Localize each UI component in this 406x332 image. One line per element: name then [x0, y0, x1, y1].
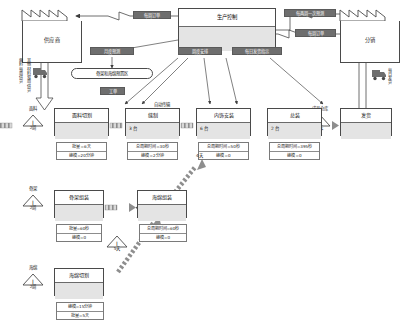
- info-arrows-schedule-fanout: [125, 58, 323, 104]
- supplier-box[interactable]: 供应商: [22, 21, 82, 63]
- process-foam-cut-body: [55, 283, 103, 299]
- process-interior-install-name: 内饰安装: [197, 109, 250, 123]
- data-row: 批量=5天: [57, 312, 103, 320]
- process-fabric-cut-body: [55, 123, 108, 139]
- process-sewing[interactable]: 缝制 3 台: [125, 108, 180, 136]
- production-control-box[interactable]: 生产控制: [178, 8, 276, 50]
- data-row: 换模=0: [57, 234, 101, 242]
- branch-to-mainline-time: 4天: [196, 152, 203, 158]
- supplier-roof-icon: [22, 10, 67, 21]
- data-box-fabric-cut: 批量=6天 换模=20分钟: [56, 142, 107, 160]
- process-foam-assembly[interactable]: 海绵组装: [137, 190, 187, 218]
- process-final-assembly[interactable]: 总装 2 台: [267, 108, 322, 136]
- inventory-triangle-icon: I: [22, 271, 44, 284]
- customer-roof-icon: [340, 10, 385, 21]
- production-control-label: 生产控制: [179, 9, 275, 27]
- data-box-frame-assembly: 批量=60秒 换模=0: [56, 224, 102, 242]
- supplier-shipping-note-2: 其他材料双周供货: [25, 58, 31, 92]
- process-frame-assembly-name: 骨架组装: [55, 191, 103, 205]
- info-chip-weekly-order-supplier[interactable]: 每周订单: [133, 11, 171, 19]
- process-foam-assembly-body: [138, 205, 186, 221]
- process-interior-install[interactable]: 内饰安装 6 台: [196, 108, 251, 136]
- data-box-foam-assembly: 总周期时间=60秒 换模=0: [139, 224, 187, 242]
- data-row: 换模=0: [270, 152, 319, 160]
- process-sewing-name: 缝制: [126, 109, 179, 123]
- info-chip-daily-ship-instruction[interactable]: 每日发货指示: [232, 47, 282, 55]
- process-interior-install-body: 6 台: [197, 123, 250, 139]
- inventory-triangle-icon: I: [22, 112, 44, 125]
- process-frame-assembly[interactable]: 骨架组装: [54, 190, 104, 218]
- data-row: 换模=2分钟: [128, 152, 177, 160]
- process-foam-cut-name: 海绵切割: [55, 269, 103, 283]
- data-row: 总周期时间=50秒: [199, 143, 248, 152]
- inventory-foam[interactable]: 海绵 I 2周: [22, 265, 44, 290]
- data-row: 换模=20分钟: [57, 152, 106, 160]
- process-final-assembly-name: 总装: [268, 109, 321, 123]
- data-row: 总周期时间=30秒: [128, 143, 177, 152]
- process-foam-cut[interactable]: 海绵切割: [54, 268, 104, 296]
- info-chip-weekly-order-customer[interactable]: 每周订单: [295, 29, 336, 37]
- auto-transfer-label: 自动传输: [154, 101, 170, 107]
- data-box-interior-install: 总周期时间=50秒 换模=0: [198, 142, 249, 160]
- data-row: 总周期时间=60秒: [140, 225, 186, 234]
- process-sewing-body: 3 台: [126, 123, 179, 139]
- inventory-triangle-icon: I: [22, 192, 44, 205]
- supermarket-preset-area[interactable]: 骨架和海绵预置区: [71, 68, 153, 79]
- data-row: 批量=60秒: [57, 225, 101, 234]
- info-chip-weekly-schedule[interactable]: 周度安排: [178, 47, 222, 55]
- data-row: 换模=15分钟: [57, 303, 103, 312]
- info-chip-biweekly-forecast[interactable]: 每两周一次预测: [284, 9, 336, 17]
- supplier-shipping-note-1: 面料每周供货: [17, 58, 23, 84]
- process-fabric-cut[interactable]: 面料切割: [54, 108, 109, 136]
- process-final-assembly-body: 2 台: [268, 123, 321, 139]
- data-row: 换模=0: [140, 234, 186, 242]
- process-shipping-body: [341, 123, 391, 139]
- customer-box[interactable]: 分销: [340, 21, 400, 63]
- truck-icon-outbound: [372, 70, 386, 80]
- process-fabric-cut-name: 面料切割: [55, 109, 108, 123]
- supplier-label: 供应商: [23, 36, 81, 43]
- process-shipping[interactable]: 发货: [340, 108, 392, 136]
- data-row: 总周期时间=395秒: [270, 143, 319, 152]
- process-shipping-name: 发货: [341, 109, 391, 123]
- data-row: 批量=6天: [57, 143, 106, 152]
- data-box-foam-cut: 换模=15分钟 批量=5天: [56, 302, 104, 320]
- info-chip-monthly-forecast[interactable]: 月度预测: [90, 47, 134, 55]
- inventory-triangle-icon: I: [106, 233, 128, 246]
- push-arrow-frame-to-foamassy: [105, 203, 136, 212]
- info-chip-work-order[interactable]: 工单: [100, 87, 125, 95]
- data-box-final-assembly: 总周期时间=395秒 换模=0: [269, 142, 320, 160]
- customer-label: 分销: [341, 36, 399, 43]
- inventory-frame[interactable]: 骨架 I 2周: [22, 186, 44, 211]
- inventory-fabric[interactable]: 面料 I 2周: [22, 106, 44, 131]
- data-row: 换模=0: [199, 152, 248, 160]
- inventory-branch-out[interactable]: I 5天: [106, 233, 128, 252]
- process-frame-assembly-body: [55, 205, 103, 221]
- customer-shipping-note: 每日发货: [386, 68, 392, 84]
- process-foam-assembly-name: 海绵组装: [138, 191, 186, 205]
- data-box-sewing: 总周期时间=30秒 换模=2分钟: [127, 142, 178, 160]
